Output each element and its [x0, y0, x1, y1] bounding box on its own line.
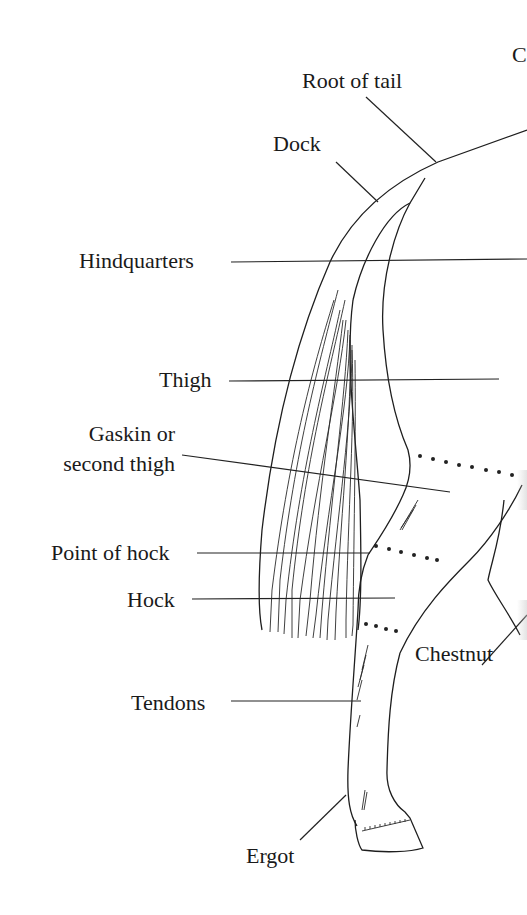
label-chestnut: Chestnut: [415, 643, 493, 665]
leader-ergot: [300, 795, 346, 840]
label-dock: Dock: [273, 133, 321, 155]
dotted-joint-lines: [364, 454, 514, 633]
label-point-of-hock: Point of hock: [51, 542, 170, 564]
label-ergot: Ergot: [246, 845, 294, 867]
label-gaskin: Gaskin or second thigh: [40, 419, 175, 479]
horse-hindleg-diagram: Root of tail Dock Hindquarters Thigh Gas…: [0, 0, 527, 915]
coronet-band: [362, 819, 410, 831]
leader-hock: [192, 598, 395, 599]
label-tendons: Tendons: [131, 692, 205, 714]
tail-inner-outline: [353, 178, 425, 300]
leader-root-of-tail: [366, 97, 436, 162]
label-hock: Hock: [127, 589, 175, 611]
label-hindquarters: Hindquarters: [79, 250, 194, 272]
label-thigh: Thigh: [159, 369, 212, 391]
leader-thigh: [229, 379, 499, 381]
tail-hair: [259, 262, 361, 640]
back-outline: [330, 130, 527, 262]
label-root-of-tail: Root of tail: [302, 70, 402, 92]
gaskin-hatching: [400, 500, 418, 530]
label-edge-fragment: C: [512, 44, 527, 66]
pastern-hatching: [362, 790, 367, 810]
page-edge-shadow: [517, 470, 527, 510]
tendon-hatching: [357, 645, 368, 727]
gaskin-front-outline: [400, 485, 522, 653]
page-edge-shadow: [517, 600, 527, 640]
leader-dock: [336, 162, 378, 202]
stifle-outline: [488, 500, 520, 635]
leg-rear-outline: [348, 203, 410, 826]
cannon-hoof-outline: [355, 653, 423, 852]
leader-hindquarters: [231, 259, 527, 262]
